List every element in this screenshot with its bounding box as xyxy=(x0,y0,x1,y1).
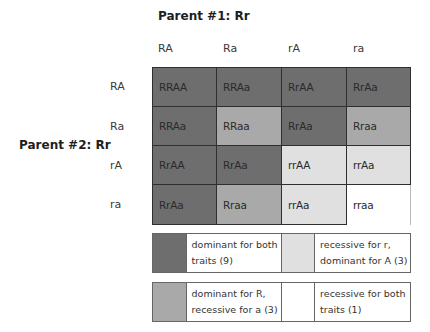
legend-row-1: dominant for both traits (9) recessive f… xyxy=(152,233,411,273)
punnett-cell: RrAA xyxy=(152,146,217,185)
row-header-RA: RA xyxy=(110,80,125,93)
col-header-rA: rA xyxy=(288,42,300,55)
punnett-cell: RrAa xyxy=(217,146,282,185)
punnett-cell: rrAA xyxy=(282,146,347,185)
punnett-cell: rrAa xyxy=(347,146,411,185)
legend-label-recessive-both: recessive for both traits (1) xyxy=(314,283,410,321)
punnett-cell: RrAA xyxy=(282,67,347,107)
punnett-cell: RrAa xyxy=(282,107,347,146)
legend-swatch-recessive-r-dominant-A xyxy=(282,234,315,272)
row-header-rA: rA xyxy=(110,159,122,172)
parent2-title: Parent #2: Rr xyxy=(19,138,111,152)
punnett-cell: RRAA xyxy=(152,67,217,107)
legend-row-2: dominant for R, recessive for a (3) rece… xyxy=(152,282,411,322)
legend-label-recessive-r-dominant-A: recessive for r, dominant for A (3) xyxy=(314,234,410,272)
punnett-cell: RrAa xyxy=(347,67,411,107)
parent1-title: Parent #1: Rr xyxy=(158,9,250,23)
punnett-cell: rraa xyxy=(347,185,411,225)
col-header-RA: RA xyxy=(158,42,173,55)
legend-swatch-recessive-both xyxy=(282,283,315,321)
punnett-cell: RRAa xyxy=(217,67,282,107)
row-header-Ra: Ra xyxy=(110,120,124,133)
punnett-cell: rrAa xyxy=(282,185,347,225)
col-header-Ra: Ra xyxy=(223,42,237,55)
punnett-cell: RRaa xyxy=(217,107,282,146)
punnett-cell: Rraa xyxy=(217,185,282,225)
legend-label-dominant-both: dominant for both traits (9) xyxy=(186,234,282,272)
legend-swatch-dominant-both xyxy=(153,234,186,272)
punnett-cell: RrAa xyxy=(152,185,217,225)
punnett-square: RRAARRAaRrAARrAaRRAaRRaaRrAaRraaRrAARrAa… xyxy=(152,67,411,225)
punnett-cell: Rraa xyxy=(347,107,411,146)
legend-swatch-dominant-R-recessive-a xyxy=(153,283,186,321)
row-header-ra: ra xyxy=(110,198,121,211)
legend-label-dominant-R-recessive-a: dominant for R, recessive for a (3) xyxy=(186,283,282,321)
col-header-ra: ra xyxy=(353,42,364,55)
punnett-cell: RRAa xyxy=(152,107,217,146)
